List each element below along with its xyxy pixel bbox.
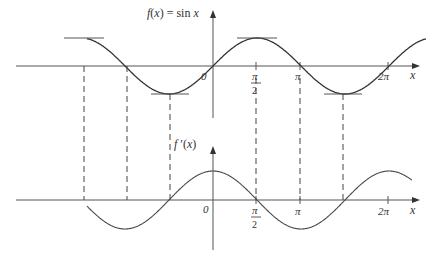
tick-label-denominator: 2 [252,85,257,96]
top-y-arrow-icon [210,10,216,18]
tick-label-denominator: 2 [252,219,257,230]
tick-label: π [295,70,301,82]
bottom-y-arrow-icon [210,146,216,154]
bottom-x-label: x [409,203,416,217]
tick-label: π [252,70,258,82]
bottom-origin-label: 0 [203,203,209,215]
tick-label: π [252,204,258,216]
top-x-label: x [409,68,416,82]
top-function-label: f(x) = sin x [147,6,199,20]
tick-label: π [295,205,301,217]
tick-label: 2π [378,205,390,217]
bottom-function-label: f ′(x) [174,137,196,151]
derivative-diagram: f(x) = sin x x 0 π 2 π 2π f ′(x) x 0 π 2… [0,0,426,258]
top-origin-label: 0 [201,70,207,82]
tick-label: 2π [378,70,390,82]
